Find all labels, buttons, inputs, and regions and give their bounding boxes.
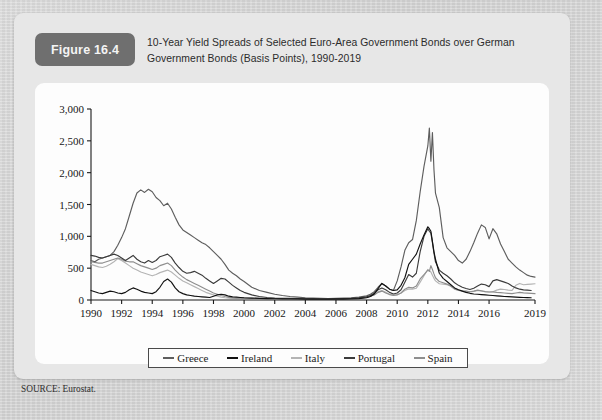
legend-swatch-portugal bbox=[344, 357, 355, 359]
y-axis-tick-label: 1,500 bbox=[59, 199, 84, 211]
legend-item-ireland[interactable]: Ireland bbox=[227, 352, 272, 364]
y-axis-tick-label: 3,000 bbox=[59, 103, 84, 115]
legend-label-italy: Italy bbox=[305, 352, 325, 364]
x-axis-tick-label: 2014 bbox=[447, 307, 470, 319]
x-axis-tick-label: 2012 bbox=[417, 307, 439, 319]
x-axis-tick-label: 2016 bbox=[478, 307, 501, 319]
legend-swatch-ireland bbox=[227, 357, 238, 359]
legend-label-spain: Spain bbox=[428, 352, 453, 364]
x-axis-tick-label: 1990 bbox=[80, 307, 103, 319]
figure-number-label: Figure 16.4 bbox=[51, 43, 119, 57]
y-axis-tick-label: 1,000 bbox=[59, 230, 84, 242]
x-axis-tick-label: 1992 bbox=[111, 307, 133, 319]
line-chart: 05001,0001,5002,0002,5003,00019901992199… bbox=[35, 83, 549, 364]
legend-swatch-italy bbox=[291, 357, 302, 359]
x-axis-tick-label: 2006 bbox=[325, 307, 348, 319]
y-axis-tick-label: 500 bbox=[68, 262, 85, 274]
figure-title: 10-Year Yield Spreads of Selected Euro-A… bbox=[147, 35, 547, 66]
y-axis-tick-label: 2,000 bbox=[59, 167, 84, 179]
x-axis-tick-label: 1994 bbox=[141, 307, 164, 319]
x-axis-tick-label: 2008 bbox=[356, 307, 379, 319]
x-axis-tick-label: 2000 bbox=[233, 307, 256, 319]
x-axis-tick-label: 1996 bbox=[172, 307, 195, 319]
chart-panel: 05001,0001,5002,0002,5003,00019901992199… bbox=[35, 83, 549, 364]
series-line-greece bbox=[91, 128, 535, 299]
x-axis-tick-label: 2019 bbox=[524, 307, 547, 319]
y-axis-tick-label: 0 bbox=[79, 294, 85, 306]
legend-item-spain[interactable]: Spain bbox=[414, 352, 453, 364]
legend-swatch-greece bbox=[163, 357, 174, 359]
y-axis-tick-label: 2,500 bbox=[59, 135, 84, 147]
legend-label-ireland: Ireland bbox=[241, 352, 272, 364]
legend-label-portugal: Portugal bbox=[358, 352, 395, 364]
source-note: SOURCE: Eurostat. bbox=[21, 384, 96, 394]
legend-swatch-spain bbox=[414, 357, 425, 359]
legend-label-greece: Greece bbox=[177, 352, 208, 364]
x-axis-tick-label: 2010 bbox=[386, 307, 409, 319]
legend-item-portugal[interactable]: Portugal bbox=[344, 352, 395, 364]
series-line-portugal bbox=[91, 229, 531, 299]
x-axis-tick-label: 1998 bbox=[202, 307, 225, 319]
x-axis-tick-label: 2004 bbox=[294, 307, 317, 319]
figure-card: Figure 16.4 10-Year Yield Spreads of Sel… bbox=[14, 13, 570, 379]
legend-item-greece[interactable]: Greece bbox=[163, 352, 208, 364]
x-axis-tick-label: 2002 bbox=[264, 307, 286, 319]
chart-legend: GreeceIrelandItalyPortugalSpain bbox=[148, 348, 468, 368]
figure-number-badge: Figure 16.4 bbox=[35, 33, 135, 66]
legend-item-italy[interactable]: Italy bbox=[291, 352, 325, 364]
